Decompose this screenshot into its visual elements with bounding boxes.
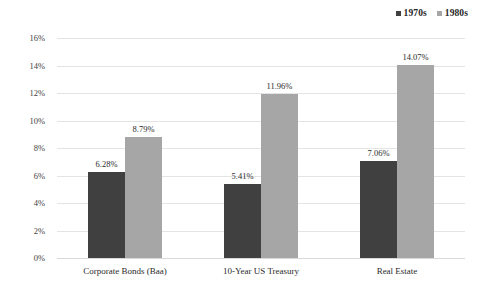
- bar-column: 11.96%: [261, 38, 298, 258]
- y-axis-tick-label: 8%: [34, 143, 45, 153]
- bar-group: 6.28%8.79%: [57, 38, 193, 258]
- plot-area: 6.28%8.79%5.41%11.96%7.06%14.07%: [57, 38, 465, 258]
- legend-entry-1970s[interactable]: 1970s: [396, 9, 427, 19]
- square-marker-icon: [396, 11, 401, 16]
- chart-legend: 1970s 1980s: [396, 9, 468, 19]
- bar-column: 6.28%: [88, 38, 125, 258]
- y-axis-tick-label: 0%: [34, 253, 45, 263]
- bar-column: 7.06%: [360, 38, 397, 258]
- x-axis-tick-label: 10-Year US Treasury: [193, 266, 329, 276]
- legend-label-1980s: 1980s: [445, 9, 468, 19]
- bar-column: 8.79%: [125, 38, 162, 258]
- bar[interactable]: [360, 161, 397, 258]
- bar-value-label: 7.06%: [368, 148, 390, 158]
- gridline: [57, 258, 465, 259]
- bar[interactable]: [224, 184, 261, 258]
- bar-group: 5.41%11.96%: [193, 38, 329, 258]
- y-axis-tick-label: 16%: [29, 33, 45, 43]
- bar-value-label: 8.79%: [133, 124, 155, 134]
- y-axis-tick-label: 12%: [29, 88, 45, 98]
- x-axis-tick-labels: Corporate Bonds (Baa)10-Year US Treasury…: [57, 266, 465, 276]
- x-axis-tick-label: Corporate Bonds (Baa): [57, 266, 193, 276]
- y-axis-tick-labels: 16%14%12%10%8%6%4%2%0%: [0, 38, 50, 258]
- y-axis-tick-label: 10%: [29, 116, 45, 126]
- bar-column: 14.07%: [397, 38, 434, 258]
- y-axis-tick-label: 6%: [34, 171, 45, 181]
- bar-value-label: 11.96%: [267, 81, 293, 91]
- bar-value-label: 5.41%: [232, 171, 254, 181]
- square-marker-icon: [437, 11, 442, 16]
- bar-groups: 6.28%8.79%5.41%11.96%7.06%14.07%: [57, 38, 465, 258]
- y-axis-tick-label: 4%: [34, 198, 45, 208]
- bar-column: 5.41%: [224, 38, 261, 258]
- bar-group: 7.06%14.07%: [329, 38, 465, 258]
- bar[interactable]: [88, 172, 125, 258]
- bar-value-label: 6.28%: [96, 159, 118, 169]
- y-axis-tick-label: 14%: [29, 61, 45, 71]
- bar[interactable]: [397, 65, 434, 258]
- legend-label-1970s: 1970s: [404, 9, 427, 19]
- bar[interactable]: [261, 94, 298, 258]
- bar-value-label: 14.07%: [402, 52, 428, 62]
- y-axis-tick-label: 2%: [34, 226, 45, 236]
- x-axis-tick-label: Real Estate: [329, 266, 465, 276]
- bar[interactable]: [125, 137, 162, 258]
- bar-chart: 1970s 1980s 10-Year Annualized Return 16…: [0, 0, 481, 298]
- legend-entry-1980s[interactable]: 1980s: [437, 9, 468, 19]
